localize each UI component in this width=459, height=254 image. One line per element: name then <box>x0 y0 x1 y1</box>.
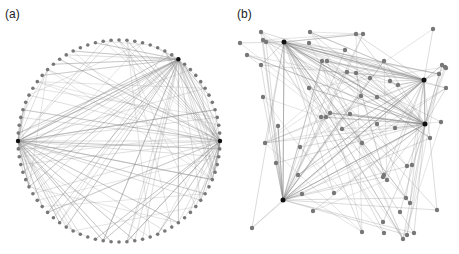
node <box>274 161 278 165</box>
node <box>259 30 263 34</box>
node <box>263 141 267 145</box>
edge <box>263 34 356 40</box>
node <box>396 83 400 87</box>
edge <box>384 124 425 175</box>
edge <box>356 73 384 175</box>
node <box>308 30 312 34</box>
node <box>408 201 412 205</box>
node <box>405 233 409 237</box>
node <box>307 86 311 90</box>
edge <box>322 61 362 232</box>
node <box>250 226 254 230</box>
edge <box>283 42 284 200</box>
node <box>307 41 311 45</box>
node <box>401 237 405 241</box>
node <box>404 196 408 200</box>
node <box>385 178 389 182</box>
force-directed-network-graph <box>0 0 459 254</box>
node <box>361 32 365 36</box>
node <box>238 41 242 45</box>
node <box>375 95 379 99</box>
node <box>410 163 414 167</box>
node <box>444 86 448 90</box>
edge <box>300 147 384 233</box>
node <box>345 70 349 74</box>
node <box>412 231 416 235</box>
node <box>439 120 443 124</box>
node <box>300 192 304 196</box>
node <box>354 32 358 36</box>
node <box>296 173 300 177</box>
node <box>311 209 315 213</box>
edge <box>252 42 284 228</box>
edge <box>266 42 439 74</box>
node <box>388 79 392 83</box>
node <box>382 231 386 235</box>
edge <box>284 42 424 80</box>
node <box>428 136 432 140</box>
node <box>259 63 263 67</box>
hub-node <box>422 78 427 83</box>
edge <box>302 194 362 232</box>
node <box>437 72 441 76</box>
node <box>354 71 358 75</box>
node <box>332 191 336 195</box>
edge <box>265 129 342 143</box>
edge <box>361 96 377 97</box>
edge <box>265 143 362 232</box>
node <box>264 40 268 44</box>
node <box>405 164 409 168</box>
node <box>298 145 302 149</box>
edge <box>261 65 283 200</box>
node <box>324 115 328 119</box>
node <box>320 59 324 63</box>
node <box>398 210 402 214</box>
edge <box>283 200 414 233</box>
node <box>382 59 386 63</box>
edge <box>400 124 425 212</box>
node <box>444 66 448 70</box>
hub-node <box>282 40 287 45</box>
node <box>328 111 332 115</box>
node <box>360 141 364 145</box>
node <box>261 95 265 99</box>
node <box>368 76 372 80</box>
node <box>340 127 344 131</box>
node <box>375 122 379 126</box>
node <box>319 115 323 119</box>
edge <box>414 124 425 233</box>
node <box>393 126 397 130</box>
node <box>381 220 385 224</box>
node <box>245 53 249 57</box>
node <box>360 230 364 234</box>
node <box>276 124 280 128</box>
hub-node <box>423 122 428 127</box>
edge <box>261 65 424 80</box>
edge <box>283 96 361 200</box>
edge <box>283 61 322 200</box>
hub-node <box>281 198 286 203</box>
edge <box>240 42 284 43</box>
edge <box>377 124 406 198</box>
node <box>431 27 435 31</box>
node <box>325 59 329 63</box>
node <box>435 208 439 212</box>
node <box>359 94 363 98</box>
edge <box>283 198 406 200</box>
node <box>381 175 385 179</box>
node <box>343 48 347 52</box>
node <box>348 112 352 116</box>
